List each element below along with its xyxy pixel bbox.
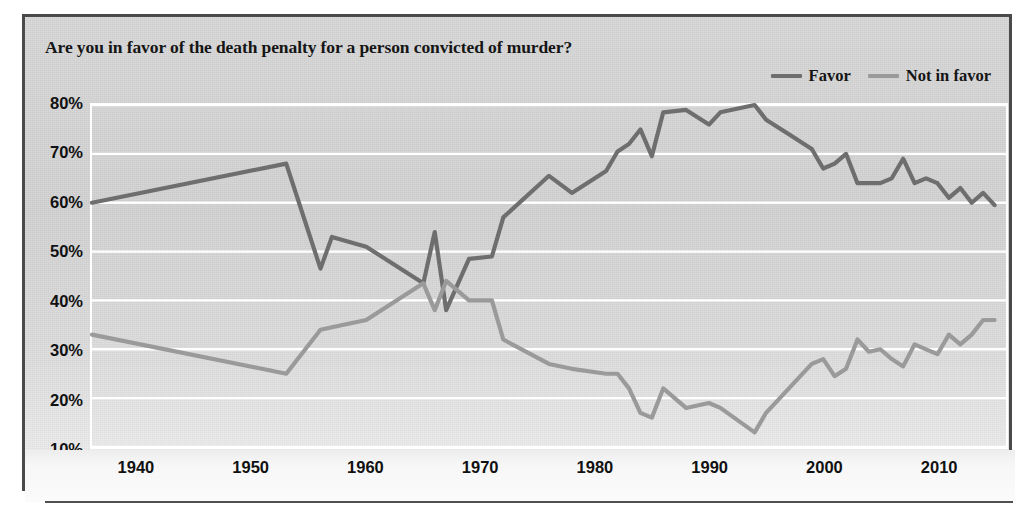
- y-axis-tick-80: 80%: [50, 94, 83, 113]
- x-axis-tick-2010: 2010: [921, 458, 958, 477]
- x-axis-tick-1950: 1950: [232, 458, 269, 477]
- legend-item-favor: Favor: [771, 66, 851, 86]
- legend-label-favor: Favor: [809, 66, 851, 86]
- y-axis-tick-labels: 80%70%60%50%40%30%20%10%: [25, 88, 83, 488]
- chart-plot-svg: [92, 105, 1006, 447]
- legend-swatch-not-in-favor: [868, 74, 899, 78]
- x-axis-tick-2000: 2000: [806, 458, 843, 477]
- chart-screenshot: Are you in favor of the death penalty fo…: [0, 0, 1031, 508]
- legend-item-not-in-favor: Not in favor: [868, 66, 991, 86]
- x-axis-rule: [45, 501, 1013, 503]
- x-axis-band: [25, 450, 1015, 502]
- plot-area: [90, 103, 1008, 449]
- legend-swatch-favor: [771, 74, 802, 78]
- chart-title: Are you in favor of the death penalty fo…: [45, 37, 572, 58]
- series-line-favor: [92, 105, 995, 310]
- series-line-not-in-favor: [92, 281, 995, 432]
- y-axis-tick-40: 40%: [50, 291, 83, 310]
- chart-figure-frame: Are you in favor of the death penalty fo…: [22, 14, 1012, 491]
- y-axis-tick-50: 50%: [50, 242, 83, 261]
- x-axis-tick-1940: 1940: [118, 458, 155, 477]
- y-axis-tick-20: 20%: [50, 390, 83, 409]
- x-axis-tick-1990: 1990: [691, 458, 728, 477]
- chart-legend: Favor Not in favor: [771, 66, 991, 86]
- x-axis-tick-1980: 1980: [577, 458, 614, 477]
- plot-wrapper: 19401950196019701980199020002010: [90, 88, 1015, 488]
- x-axis-tick-1960: 1960: [347, 458, 384, 477]
- y-axis-tick-30: 30%: [50, 341, 83, 360]
- y-axis-tick-70: 70%: [50, 143, 83, 162]
- legend-label-not-in-favor: Not in favor: [906, 66, 991, 86]
- x-axis-tick-1970: 1970: [462, 458, 499, 477]
- y-axis-tick-60: 60%: [50, 192, 83, 211]
